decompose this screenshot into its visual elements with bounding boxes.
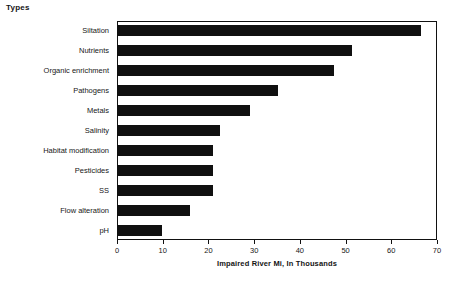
category-label: Siltation	[82, 26, 109, 35]
category-label: SS	[99, 186, 109, 195]
category-label: Pesticides	[75, 166, 109, 175]
category-label: Salinity	[85, 126, 109, 135]
bar-chart: Types SiltationNutrientsOrganic enrichme…	[0, 0, 453, 288]
plot-frame	[117, 21, 437, 240]
x-tick-mark	[254, 240, 255, 244]
x-tick-mark	[437, 240, 438, 244]
x-tick-label: 30	[250, 246, 258, 255]
x-tick-label: 20	[204, 246, 212, 255]
x-tick-mark	[117, 240, 118, 244]
x-tick-label: 40	[296, 246, 304, 255]
category-label: Habitat modification	[43, 146, 109, 155]
x-tick-label: 0	[115, 246, 119, 255]
x-tick-mark	[300, 240, 301, 244]
category-label: Pathogens	[73, 86, 109, 95]
x-tick-mark	[208, 240, 209, 244]
category-label: Flow alteration	[60, 206, 109, 215]
x-tick-label: 10	[159, 246, 167, 255]
x-tick-mark	[163, 240, 164, 244]
x-tick-mark	[346, 240, 347, 244]
category-label: pH	[99, 226, 109, 235]
x-tick-label: 60	[387, 246, 395, 255]
category-axis-labels: SiltationNutrientsOrganic enrichmentPath…	[0, 21, 113, 240]
x-tick-mark	[391, 240, 392, 244]
chart-heading: Types	[6, 3, 30, 12]
x-axis-title: Impaired River Mi, In Thousands	[117, 259, 437, 268]
category-label: Nutrients	[79, 46, 109, 55]
category-label: Organic enrichment	[44, 66, 109, 75]
x-tick-label: 70	[433, 246, 441, 255]
x-tick-label: 50	[341, 246, 349, 255]
category-label: Metals	[87, 106, 109, 115]
